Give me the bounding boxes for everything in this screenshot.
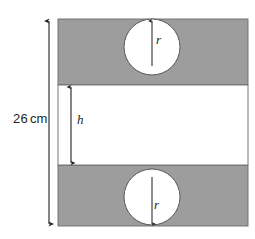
total-height-unit: cm <box>30 111 48 126</box>
total-height-label: 26cm <box>13 112 48 125</box>
radius-label-top: r <box>156 33 161 46</box>
band-height-label: h <box>77 113 84 126</box>
cylinder-net-figure: 26cm h r r <box>0 0 255 239</box>
radius-label-bottom: r <box>154 198 159 211</box>
total-height-value: 26 <box>13 111 28 126</box>
white-band-curved-surface <box>58 85 248 165</box>
